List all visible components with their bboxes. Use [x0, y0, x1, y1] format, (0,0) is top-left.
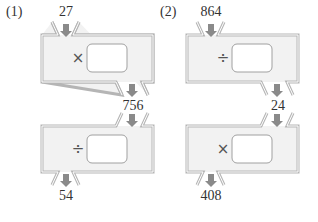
multiply-operator-icon: ×	[216, 140, 230, 158]
problem-2-output: 408	[191, 188, 231, 204]
multiply-operator-icon: ×	[71, 49, 85, 67]
divide-operator-icon: ÷	[71, 140, 85, 158]
divide-operator-icon: ÷	[216, 49, 230, 67]
answer-box-1-1[interactable]	[87, 44, 127, 72]
problem-1-output: 54	[46, 188, 86, 204]
problem-2-input: 864	[191, 4, 231, 20]
problem-1-middle: 756	[113, 98, 153, 114]
answer-box-1-2[interactable]	[87, 135, 127, 163]
arrow-down-icon	[126, 114, 138, 127]
arrow-down-icon	[60, 174, 72, 187]
arrow-down-icon	[271, 84, 283, 97]
arrow-down-icon	[126, 84, 138, 97]
problem-1-input: 27	[46, 4, 86, 20]
problem-1-label: (1)	[6, 4, 22, 20]
problem-2-middle: 24	[258, 98, 298, 114]
arrow-down-icon	[271, 114, 283, 127]
problem-2-label: (2)	[160, 4, 176, 20]
answer-box-2-2[interactable]	[232, 135, 272, 163]
arrow-down-icon	[205, 174, 217, 187]
answer-box-2-1[interactable]	[232, 44, 272, 72]
